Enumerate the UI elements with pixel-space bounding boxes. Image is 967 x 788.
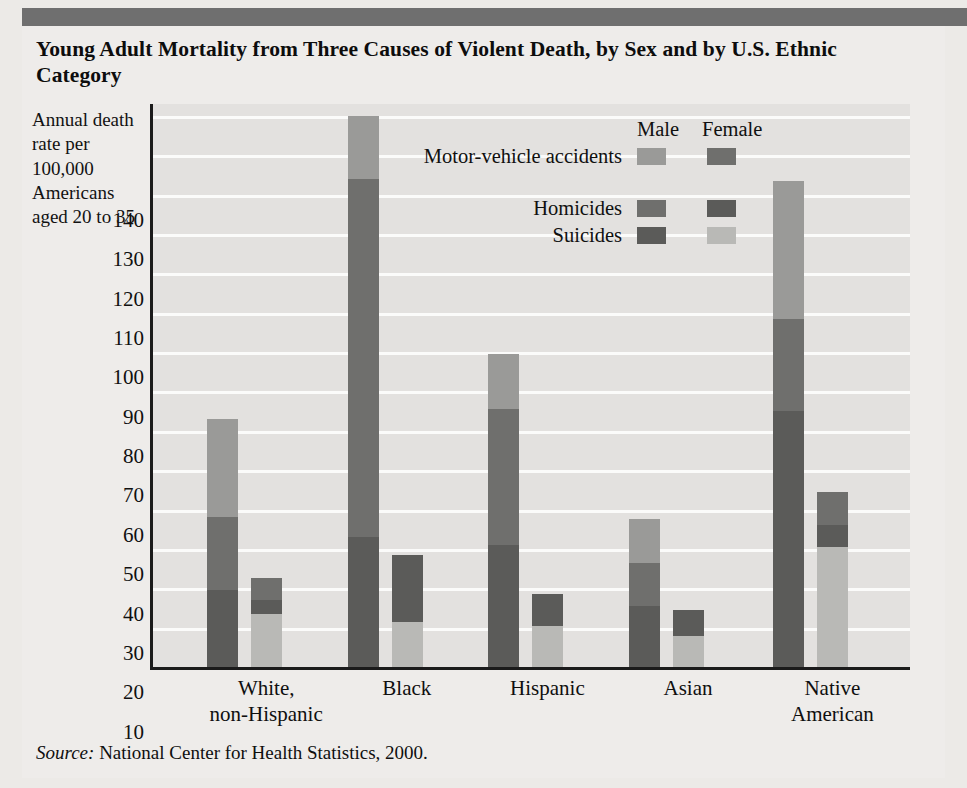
legend-label: Motor-vehicle accidents xyxy=(392,144,622,168)
bar-segment[interactable] xyxy=(773,319,804,412)
y-tick-label: 20 xyxy=(74,682,144,703)
y-tick-label: 70 xyxy=(74,485,144,506)
bar-male[interactable] xyxy=(348,116,379,667)
y-tick-label: 110 xyxy=(74,327,144,348)
legend-swatch-female xyxy=(707,227,736,244)
bar-segment[interactable] xyxy=(488,354,519,409)
y-tick-label: 130 xyxy=(74,249,144,270)
legend-swatch-male xyxy=(637,200,666,217)
legend-label: Suicides xyxy=(553,223,622,247)
bar-segment[interactable] xyxy=(817,525,848,547)
y-tick-label: 40 xyxy=(74,603,144,624)
y-tick-label: 90 xyxy=(74,406,144,427)
bar-group xyxy=(207,104,287,667)
bar-segment[interactable] xyxy=(251,614,282,667)
bar-segment[interactable] xyxy=(673,636,704,667)
bar-segment[interactable] xyxy=(392,622,423,667)
bar-group xyxy=(773,104,853,667)
source-note: Source: National Center for Health Stati… xyxy=(36,742,428,764)
y-tick-label: 60 xyxy=(74,524,144,545)
bar-female[interactable] xyxy=(673,610,704,667)
bar-male[interactable] xyxy=(773,181,804,667)
legend-header-male: Male xyxy=(637,118,679,141)
bar-segment[interactable] xyxy=(348,116,379,179)
legend-label: Homicides xyxy=(533,196,622,220)
y-tick-label: 100 xyxy=(74,367,144,388)
legend-row: Motor-vehicle accidents xyxy=(455,144,785,196)
y-tick-label: 120 xyxy=(74,288,144,309)
bar-male[interactable] xyxy=(488,354,519,667)
legend-rows: Motor-vehicle accidentsHomicidesSuicides xyxy=(455,144,785,250)
bar-segment[interactable] xyxy=(532,626,563,667)
bar-segment[interactable] xyxy=(488,409,519,545)
y-tick-label: 10 xyxy=(74,721,144,742)
source-label: Source: xyxy=(36,742,94,763)
y-tick-label: 140 xyxy=(74,209,144,230)
legend-swatch-female xyxy=(707,200,736,217)
bar-male[interactable] xyxy=(629,519,660,667)
x-axis-labels: White, non-HispanicBlackHispanicAsianNat… xyxy=(153,676,913,738)
legend-swatch-male xyxy=(637,227,666,244)
bar-segment[interactable] xyxy=(392,555,423,622)
bar-segment[interactable] xyxy=(251,600,282,614)
chart-legend: Male Female Motor-vehicle accidentsHomic… xyxy=(455,118,785,250)
bar-segment[interactable] xyxy=(207,590,238,667)
y-tick-label: 80 xyxy=(74,446,144,467)
topbar-left-cap xyxy=(0,0,22,26)
source-value: National Center for Health Statistics, 2… xyxy=(94,742,427,763)
bar-segment[interactable] xyxy=(629,519,660,562)
bar-segment[interactable] xyxy=(348,537,379,667)
bar-female[interactable] xyxy=(817,492,848,667)
decorative-header-bar xyxy=(22,8,967,26)
bar-segment[interactable] xyxy=(817,547,848,667)
bar-male[interactable] xyxy=(207,419,238,667)
bar-female[interactable] xyxy=(392,555,423,667)
y-tick-label: 30 xyxy=(74,642,144,663)
bar-female[interactable] xyxy=(251,578,282,667)
bar-segment[interactable] xyxy=(629,606,660,667)
legend-row: Homicides xyxy=(455,196,785,223)
y-tick-label: 50 xyxy=(74,564,144,585)
bar-segment[interactable] xyxy=(488,545,519,667)
legend-swatch-female xyxy=(707,148,736,165)
bar-segment[interactable] xyxy=(251,578,282,600)
bar-segment[interactable] xyxy=(673,610,704,636)
legend-swatch-male xyxy=(637,148,666,165)
bar-segment[interactable] xyxy=(817,492,848,525)
x-tick-label: White, non-Hispanic xyxy=(210,676,323,727)
bar-segment[interactable] xyxy=(532,594,563,625)
x-axis-line xyxy=(150,667,910,670)
bar-segment[interactable] xyxy=(629,563,660,606)
bar-segment[interactable] xyxy=(348,179,379,537)
figure-page: Young Adult Mortality from Three Causes … xyxy=(0,0,967,788)
legend-row: Suicides xyxy=(455,223,785,250)
bar-group xyxy=(348,104,428,667)
bar-segment[interactable] xyxy=(207,517,238,590)
page-title: Young Adult Mortality from Three Causes … xyxy=(36,36,896,88)
legend-header-female: Female xyxy=(702,118,762,141)
bar-female[interactable] xyxy=(532,594,563,667)
x-tick-label: Asian xyxy=(664,676,713,702)
x-tick-label: Hispanic xyxy=(510,676,585,702)
legend-header-row: Male Female xyxy=(455,118,785,144)
bar-segment[interactable] xyxy=(773,411,804,667)
bar-segment[interactable] xyxy=(207,419,238,517)
x-tick-label: Native American xyxy=(791,676,874,727)
x-tick-label: Black xyxy=(382,676,431,702)
